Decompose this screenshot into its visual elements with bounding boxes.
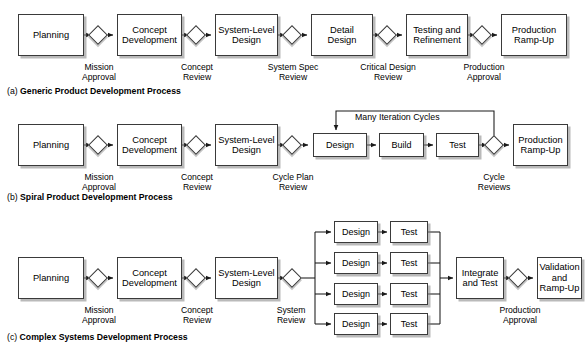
caption-generic: (a) Generic Product Development Process: [7, 86, 181, 96]
row-spiral-loop-label: Many Iteration Cycles: [352, 112, 443, 122]
box-label: Planning: [31, 140, 71, 150]
row-complex-gate-mission-approval[interactable]: [88, 268, 108, 288]
box-label-line2: Development: [120, 145, 179, 155]
row-complex-gate-label-system-review: System Review: [258, 305, 324, 325]
box-label-line2: and Ramp-Up: [537, 273, 581, 294]
box-label-line1: Concept: [120, 25, 179, 35]
box-label: Test: [399, 258, 420, 268]
box-label-line2: Design: [326, 35, 359, 45]
row-complex-box-integrate-and-test[interactable]: Integrate and Test: [456, 257, 504, 299]
box-label-line1: Integrate: [460, 268, 501, 278]
caption-letter: (c): [7, 332, 17, 342]
row-generic-box-detail-design[interactable]: Detail Design: [311, 14, 373, 56]
box-label-line2: Design: [216, 145, 276, 155]
row-complex-box-planning[interactable]: Planning: [18, 257, 84, 299]
row-complex-branch-3-test[interactable]: Test: [390, 283, 428, 305]
row-generic-gate-label-critical-design-review: Critical Design Review: [343, 62, 433, 82]
row-complex-branch-4-test[interactable]: Test: [390, 313, 428, 335]
row-complex-branch-2-design[interactable]: Design: [334, 252, 378, 274]
row-spiral-gate-label-concept-review: Concept Review: [161, 172, 233, 192]
row-complex-branch-3-design[interactable]: Design: [334, 283, 378, 305]
box-label-line2: Development: [120, 278, 179, 288]
box-label-line1: System-Level: [216, 135, 276, 145]
row-complex-gate-concept-review[interactable]: [186, 268, 206, 288]
caption-complex: (c) Complex Systems Development Process: [7, 332, 188, 342]
row-spiral-gate-concept-review[interactable]: [186, 135, 206, 155]
box-label: Design: [340, 258, 372, 268]
row-generic-gate-mission-approval[interactable]: [88, 25, 108, 45]
row-generic-gate-critical-design-review[interactable]: [377, 25, 397, 45]
box-label: Test: [399, 289, 420, 299]
box-label-line2: Design: [216, 278, 276, 288]
box-label: Planning: [31, 30, 71, 40]
row-spiral-box-production-ramp-up[interactable]: Production Ramp-Up: [513, 124, 568, 166]
row-generic-gate-label-concept-review: Concept Review: [161, 62, 233, 82]
row-generic-gate-production-approval[interactable]: [472, 25, 492, 45]
row-spiral-gate-label-cycle-reviews: Cycle Reviews: [461, 172, 527, 192]
row-spiral-box-concept-development[interactable]: Concept Development: [117, 124, 182, 166]
box-label-line2: Ramp-Up: [510, 35, 558, 45]
box-label-line1: Testing and: [411, 25, 463, 35]
row-spiral-box-test[interactable]: Test: [436, 133, 479, 157]
row-spiral-box-design[interactable]: Design: [313, 133, 367, 157]
row-spiral-gate-cycle-plan-review[interactable]: [282, 135, 302, 155]
box-label-line1: Concept: [120, 135, 179, 145]
box-label-line1: Concept: [120, 268, 179, 278]
box-label-line2: Design: [216, 35, 276, 45]
row-generic-box-production-ramp-up[interactable]: Production Ramp-Up: [501, 14, 567, 56]
box-label: Planning: [31, 273, 71, 283]
row-complex-branch-4-design[interactable]: Design: [334, 313, 378, 335]
row-generic-gate-system-spec-review[interactable]: [282, 25, 302, 45]
row-generic-box-planning[interactable]: Planning: [18, 14, 84, 56]
box-label: Test: [399, 227, 420, 237]
box-label-line1: System-Level: [216, 268, 276, 278]
row-complex-branch-1-design[interactable]: Design: [334, 221, 378, 243]
row-generic-box-system-level-design[interactable]: System-Level Design: [215, 14, 278, 56]
row-complex-box-system-level-design[interactable]: System-Level Design: [215, 257, 278, 299]
box-label-line1: Production: [516, 135, 564, 145]
caption-text: Complex Systems Development Process: [20, 332, 188, 342]
row-complex-gate-label-production-approval: Production Approval: [479, 305, 561, 325]
process-diagram: Planning Concept Development System-Leve…: [0, 0, 585, 358]
row-generic-gate-label-system-spec-review: System Spec Review: [252, 62, 334, 82]
caption-letter: (b): [7, 192, 18, 202]
box-label-line1: Detail: [326, 25, 359, 35]
row-generic-box-concept-development[interactable]: Concept Development: [117, 14, 182, 56]
row-complex-gate-label-concept-review: Concept Review: [161, 305, 233, 325]
row-complex-box-concept-development[interactable]: Concept Development: [117, 257, 182, 299]
row-generic-gate-label-mission-approval: Mission Approval: [63, 62, 135, 82]
box-label: Design: [340, 289, 372, 299]
caption-text: Generic Product Development Process: [20, 86, 181, 96]
row-spiral-box-planning[interactable]: Planning: [18, 124, 84, 166]
box-label-line1: Validation: [537, 262, 581, 272]
row-spiral-box-build[interactable]: Build: [379, 133, 424, 157]
row-generic-gate-label-production-approval: Production Approval: [443, 62, 525, 82]
box-label: Design: [324, 140, 356, 150]
box-label-line1: System-Level: [216, 25, 276, 35]
box-label-line2: Development: [120, 35, 179, 45]
box-label: Test: [447, 140, 468, 150]
row-spiral-gate-cycle-reviews[interactable]: [484, 135, 504, 155]
row-complex-gate-label-mission-approval: Mission Approval: [63, 305, 135, 325]
box-label: Design: [340, 227, 372, 237]
box-label: Build: [389, 140, 413, 150]
row-complex-gate-production-approval[interactable]: [508, 268, 528, 288]
caption-text: Spiral Product Development Process: [20, 192, 173, 202]
row-spiral-box-system-level-design[interactable]: System-Level Design: [215, 124, 278, 166]
box-label-line2: Refinement: [411, 35, 463, 45]
row-spiral-gate-label-mission-approval: Mission Approval: [63, 172, 135, 192]
row-complex-branch-2-test[interactable]: Test: [390, 252, 428, 274]
row-spiral-gate-mission-approval[interactable]: [88, 135, 108, 155]
row-generic-box-testing-and-refinement[interactable]: Testing and Refinement: [406, 14, 468, 56]
row-generic-gate-concept-review[interactable]: [186, 25, 206, 45]
caption-spiral: (b) Spiral Product Development Process: [7, 192, 173, 202]
box-label-line2: Ramp-Up: [516, 145, 564, 155]
row-complex-box-validation-and-ramp-up[interactable]: Validation and Ramp-Up: [537, 257, 582, 299]
caption-letter: (a): [7, 86, 18, 96]
box-label: Design: [340, 319, 372, 329]
box-label-line1: Production: [510, 25, 558, 35]
row-complex-branch-1-test[interactable]: Test: [390, 221, 428, 243]
row-spiral-gate-label-cycle-plan-review: Cycle Plan Review: [254, 172, 332, 192]
box-label: Test: [399, 319, 420, 329]
row-complex-gate-system-review[interactable]: [282, 268, 302, 288]
